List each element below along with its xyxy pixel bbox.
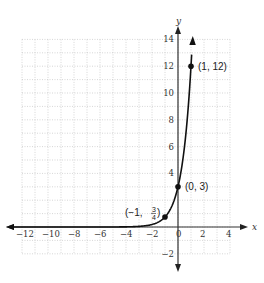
y-axis-down-arrow-icon	[175, 264, 181, 272]
x-tick-label: 4	[226, 229, 231, 239]
y-tick-label: 14	[163, 34, 174, 44]
point-label: (0, 3)	[185, 181, 208, 192]
point-label-suffix: )	[157, 207, 160, 218]
x-tick-label: −8	[68, 229, 81, 239]
y-tick-label: 10	[163, 88, 174, 98]
y-tick-label: 12	[163, 61, 174, 71]
x-tick-label: −6	[94, 229, 107, 239]
y-tick-label: 6	[169, 142, 174, 152]
y-tick-label: 4	[169, 168, 174, 178]
curve-arrow-icon	[189, 36, 196, 45]
x-tick-label: −10	[42, 229, 60, 239]
curve-left-arrow-icon	[6, 224, 14, 230]
point-label: (1, 12)	[198, 61, 227, 72]
point-marker	[188, 63, 194, 69]
x-tick-label: −2	[146, 229, 159, 239]
y-axis-label: y	[175, 16, 182, 26]
point-marker	[175, 184, 181, 190]
exponential-graph: xy −12−10−8−6−4−2024−2468101214 (−1, 34)…	[0, 0, 264, 283]
x-axis-label: x	[252, 222, 257, 232]
y-axis-up-arrow-icon	[175, 26, 181, 34]
point-marker	[162, 214, 168, 220]
function-curve	[12, 55, 192, 227]
x-tick-label: −4	[120, 229, 133, 239]
x-axis-right-arrow-icon	[240, 224, 248, 230]
fraction-numerator: 3	[152, 206, 156, 213]
fraction-denominator: 4	[152, 214, 156, 221]
x-tick-label: 2	[200, 229, 205, 239]
y-tick-label: 8	[169, 115, 174, 125]
x-tick-label: 0	[176, 229, 181, 239]
y-tick-label: −2	[161, 249, 174, 259]
x-tick-label: −12	[16, 229, 34, 239]
point-label-prefix: (−1,	[125, 207, 143, 218]
